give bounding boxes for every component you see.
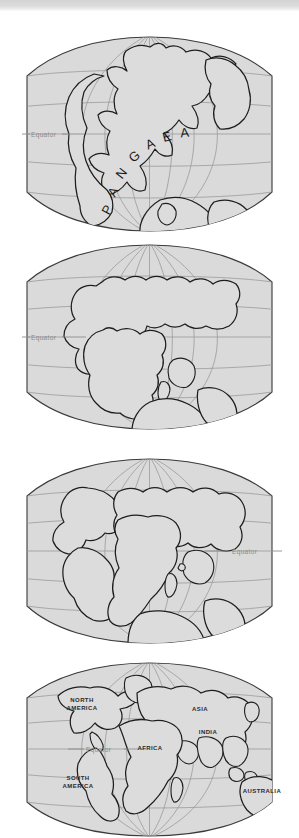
label-north-america-line1: NORTH xyxy=(70,697,93,703)
small-island xyxy=(178,564,185,571)
label-africa: AFRICA xyxy=(137,745,162,751)
equator-label: Equator xyxy=(31,334,57,342)
label-australia: AUSTRALIA xyxy=(243,788,282,794)
pangaea-india-block xyxy=(158,203,176,225)
india-fragment xyxy=(168,358,195,387)
equator-label: Equator xyxy=(31,131,57,139)
southeast-asia-landmass xyxy=(223,736,248,766)
equator-label: Equator xyxy=(232,548,258,556)
globe-panel-continued-separation: Equator xyxy=(0,456,299,646)
label-north-america-line2: AMERICA xyxy=(67,705,98,711)
label-india: INDIA xyxy=(199,729,218,735)
indonesia-island-1 xyxy=(229,767,244,781)
globe-panel-early-breakup: Equator xyxy=(0,242,299,432)
japan-arc-landmass xyxy=(245,702,260,722)
india-landmass xyxy=(183,550,214,584)
globe-panel-present-day: Equator NORTH AMERICA ASIA INDIA AFRICA … xyxy=(0,660,299,838)
label-south-america-line1: SOUTH xyxy=(67,775,90,781)
label-asia: ASIA xyxy=(192,706,208,712)
scan-artifact-strip xyxy=(0,0,299,11)
equator-label: Equator xyxy=(86,746,112,754)
globe-panel-pangaea: Equator P A N G A E A xyxy=(0,34,299,234)
new-zealand-landmass xyxy=(260,821,276,833)
label-south-america-line2: AMERICA xyxy=(63,783,94,789)
